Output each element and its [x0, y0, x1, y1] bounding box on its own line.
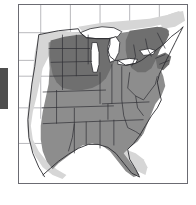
lake-michigan-shape: [91, 43, 99, 73]
map-frame: [18, 4, 188, 184]
cropped-scan-bar: [0, 68, 8, 109]
distribution-range-map: [19, 5, 187, 183]
figure-root: [0, 0, 196, 205]
